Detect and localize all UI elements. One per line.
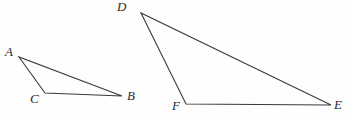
vertex-label-a: A	[5, 45, 13, 58]
vertex-label-b: B	[127, 89, 135, 102]
vertex-label-f: F	[172, 99, 180, 112]
vertex-label-e: E	[334, 98, 342, 111]
vertex-label-d: D	[117, 0, 126, 13]
geometry-figure: A C B D F E	[0, 0, 348, 120]
vertex-label-c: C	[30, 92, 39, 105]
